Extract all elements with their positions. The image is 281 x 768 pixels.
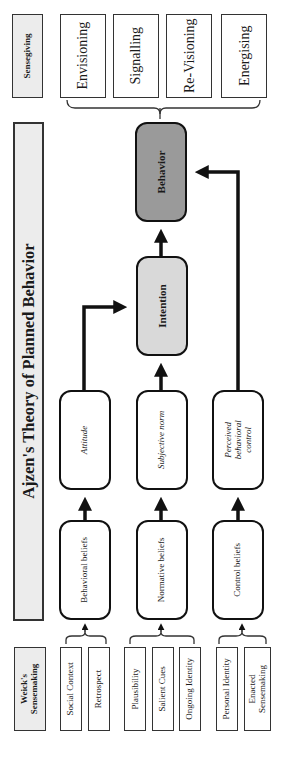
weick-header-line-2: Sensemaking <box>30 664 40 715</box>
weick-brace-1 <box>66 632 106 644</box>
weick-brace-2 <box>130 632 194 644</box>
pbc-label-line-3: control <box>243 420 253 459</box>
intention-label: Intention <box>156 284 168 327</box>
weick-header: Weick's Sensemaking <box>14 647 46 731</box>
salient-cues-label: Salient Cues <box>158 666 168 711</box>
subjective-norm-node: Subjective norm <box>136 390 188 490</box>
ajzen-title-bar: Ajzen's Theory of Planned Behavior <box>13 122 44 621</box>
behavior-label: Behavior <box>155 151 167 194</box>
normative-beliefs-label: Normative beliefs <box>157 538 167 603</box>
ajzen-title: Ajzen's Theory of Planned Behavior <box>19 244 37 499</box>
control-beliefs-node: Control beliefs <box>212 520 264 620</box>
control-beliefs-label: Control beliefs <box>233 543 243 597</box>
subjective-norm-label: Subjective norm <box>157 411 167 469</box>
sensegiving-header: Sensegiving <box>12 14 43 98</box>
enacted-line-2: Sensemaking <box>258 665 268 713</box>
sensegiving-brace <box>67 100 260 114</box>
personal-identity-label: Personal Identity <box>222 658 232 719</box>
enacted-line-1: Enacted <box>248 665 258 713</box>
envisioning-label: Envisioning <box>75 22 90 90</box>
weick-item-ongoing-identity: Ongoing Identity <box>179 647 201 731</box>
weick-brace-3 <box>219 632 266 644</box>
weick-item-plausibility: Plausibility <box>124 647 146 731</box>
energising-label: Energising <box>236 26 251 86</box>
re-visioning-label: Re-Visioning <box>181 19 196 94</box>
intention-node: Intention <box>136 256 188 356</box>
sensegiving-header-label: Sensegiving <box>23 33 33 78</box>
behavioral-beliefs-node: Behavioral beliefs <box>59 520 111 620</box>
enacted-sensemaking-label: Enacted Sensemaking <box>248 665 268 713</box>
behavioral-beliefs-label: Behavioral beliefs <box>80 537 90 603</box>
pbc-label: Perceived behavioral control <box>223 420 253 459</box>
sensegiving-item-signalling: Signalling <box>113 14 159 98</box>
arrow-attitude-to-intention <box>84 307 122 390</box>
sensegiving-item-energising: Energising <box>221 14 267 98</box>
weick-item-salient-cues: Salient Cues <box>152 647 174 731</box>
weick-item-personal-identity: Personal Identity <box>216 647 238 731</box>
attitude-node: Attitude <box>59 390 111 490</box>
sensegiving-item-envisioning: Envisioning <box>60 14 106 98</box>
weick-item-retrospect: Retrospect <box>88 647 110 731</box>
weick-header-label: Weick's Sensemaking <box>20 664 40 715</box>
arrow-pbc-to-behavior <box>200 172 238 390</box>
pbc-label-line-2: behavioral <box>233 420 243 459</box>
pbc-label-line-1: Perceived <box>223 420 233 459</box>
weick-item-enacted-sensemaking: Enacted Sensemaking <box>244 647 271 731</box>
ongoing-identity-label: Ongoing Identity <box>185 658 195 720</box>
social-context-label: Social Context <box>66 662 76 715</box>
signalling-label: Signalling <box>128 27 143 85</box>
weick-item-social-context: Social Context <box>60 647 82 731</box>
sensegiving-item-re-visioning: Re-Visioning <box>166 14 212 98</box>
perceived-behavioral-control-node: Perceived behavioral control <box>212 390 264 490</box>
retrospect-label: Retrospect <box>94 670 104 709</box>
behavior-node: Behavior <box>135 122 187 222</box>
attitude-label: Attitude <box>80 426 90 455</box>
normative-beliefs-node: Normative beliefs <box>136 520 188 620</box>
plausibility-label: Plausibility <box>130 668 140 709</box>
